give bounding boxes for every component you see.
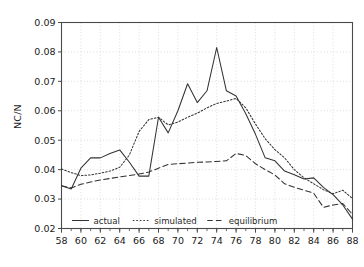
svg-text:88: 88	[346, 235, 358, 246]
svg-text:60: 60	[75, 235, 87, 246]
svg-text:0.04: 0.04	[34, 164, 55, 175]
series-line-simulated	[62, 98, 353, 198]
svg-text:82: 82	[288, 235, 300, 246]
svg-text:0.08: 0.08	[34, 46, 55, 57]
legend-label-equilibrium: equilibrium	[229, 216, 278, 226]
svg-text:66: 66	[133, 235, 145, 246]
svg-text:0.07: 0.07	[34, 76, 55, 87]
svg-text:0.09: 0.09	[34, 17, 55, 28]
grid-lines	[62, 23, 353, 229]
axis-tick-labels: 0.020.030.040.050.060.070.080.0958606264…	[34, 17, 358, 246]
legend-label-actual: actual	[94, 216, 120, 226]
axis-ticks	[58, 23, 353, 233]
plot-frame	[62, 23, 353, 229]
svg-text:78: 78	[249, 235, 261, 246]
chart-legend: actualsimulatedequilibrium	[72, 216, 277, 226]
svg-text:58: 58	[55, 235, 67, 246]
data-series-layer	[62, 48, 353, 220]
svg-text:64: 64	[114, 235, 126, 246]
svg-text:68: 68	[152, 235, 164, 246]
svg-text:80: 80	[269, 235, 281, 246]
chart-figure: NC/N 0.020.030.040.050.060.070.080.09586…	[0, 0, 364, 267]
svg-text:76: 76	[230, 235, 242, 246]
svg-text:0.02: 0.02	[34, 223, 55, 234]
svg-text:72: 72	[191, 235, 203, 246]
svg-text:70: 70	[172, 235, 184, 246]
legend-label-simulated: simulated	[154, 216, 196, 226]
svg-text:74: 74	[211, 235, 223, 246]
svg-text:0.06: 0.06	[34, 105, 55, 116]
svg-text:86: 86	[327, 235, 339, 246]
svg-text:84: 84	[308, 235, 320, 246]
line-chart-plot: 0.020.030.040.050.060.070.080.0958606264…	[0, 0, 364, 267]
svg-text:0.03: 0.03	[34, 193, 55, 204]
svg-text:0.05: 0.05	[34, 135, 55, 146]
series-line-equilibrium	[62, 153, 353, 214]
svg-text:62: 62	[94, 235, 106, 246]
series-line-actual	[62, 48, 353, 220]
